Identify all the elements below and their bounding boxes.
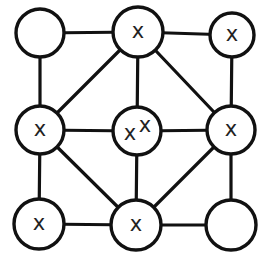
node-r0c0 <box>16 9 64 57</box>
node-r1c1: xx <box>113 107 161 155</box>
grid-graph-diagram: xxxxxxxx <box>0 0 268 256</box>
node-r1c0: x <box>16 106 64 154</box>
node-circle <box>16 9 64 57</box>
node-label: x <box>34 117 46 141</box>
node-label: x <box>226 22 238 46</box>
node-r2c0: x <box>14 199 64 249</box>
node-label: x <box>130 212 142 236</box>
node-r2c2 <box>206 200 256 250</box>
node-r2c1: x <box>111 200 161 250</box>
node-label: x <box>132 19 144 43</box>
node-r0c2: x <box>210 13 254 57</box>
node-label: x <box>139 113 151 137</box>
node-circle <box>206 200 256 250</box>
node-circle <box>113 107 161 155</box>
node-r1c2: x <box>207 106 255 154</box>
node-label: x <box>33 211 45 235</box>
node-label: x <box>225 117 237 141</box>
nodes-layer: xxxxxxxx <box>14 7 256 250</box>
node-label: x <box>124 121 136 145</box>
node-r0c1: x <box>113 7 163 57</box>
